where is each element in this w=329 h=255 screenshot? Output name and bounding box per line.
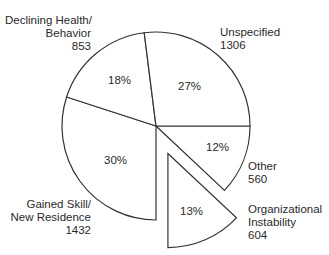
label-gained-skill: Gained Skill/ New Residence 1432 [5,198,91,237]
pct-other: 12% [206,141,229,153]
label-declining-health: Declining Health/ Behavior 853 [5,14,91,53]
pct-gained-skill: 30% [104,154,127,166]
label-unspecified: Unspecified 1306 [220,26,280,52]
pct-organizational-instability: 13% [180,205,203,217]
pct-declining-health: 18% [108,74,131,86]
label-other: Other 560 [248,160,277,186]
label-organizational-instability: Organizational Instability 604 [248,203,322,242]
pct-unspecified: 27% [178,80,201,92]
